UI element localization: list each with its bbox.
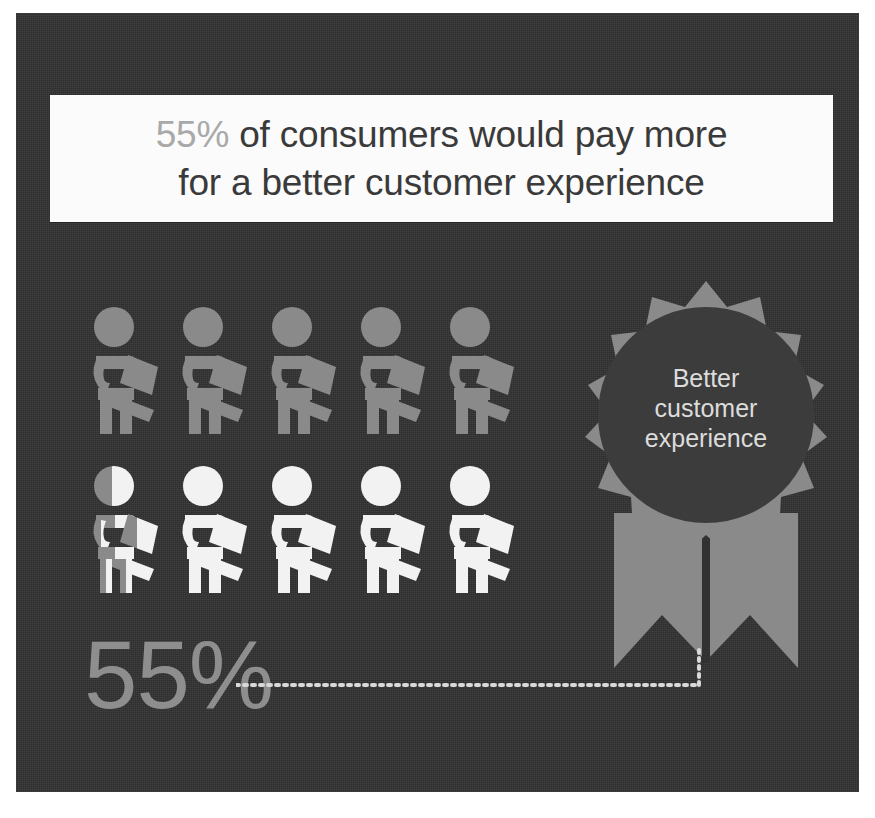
dotted-connector-line [236,629,716,709]
rosette-inner-disc [598,307,814,523]
shopper-with-bags-icon [438,461,524,601]
shopper-with-bags-icon [171,461,257,601]
title-stat-value: 55% [156,114,229,155]
shopper-with-bags-icon-half [82,461,168,601]
shopper-with-bags-icon [349,461,435,601]
shopper-with-bags-icon [171,302,257,442]
shopper-with-bags-icon [438,302,524,442]
title-line-1-rest: of consumers would pay more [229,114,727,155]
infographic-canvas: 55% of consumers would pay more for a be… [0,0,875,818]
title-line-2: for a better customer experience [178,159,704,207]
shopper-with-bags-icon [260,461,346,601]
shopper-with-bags-icon [82,302,168,442]
shopper-with-bags-icon [260,302,346,442]
title-card: 55% of consumers would pay more for a be… [50,95,833,222]
title-line-1: 55% of consumers would pay more [156,111,728,159]
pictogram-row-unfilled [82,302,527,442]
shopper-with-bags-icon [349,302,435,442]
pictogram-row-filled [82,461,527,601]
dark-background-panel: 55% of consumers would pay more for a be… [16,13,859,792]
award-rosette-icon: Better customer experience [556,263,856,673]
